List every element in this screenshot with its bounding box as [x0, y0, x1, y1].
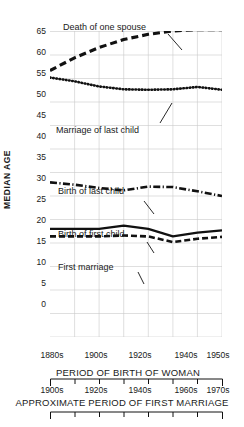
x-tick-secondary-1900s: 1900s [40, 385, 63, 395]
y-tick-25: 25 [22, 194, 46, 204]
series-line [50, 78, 222, 90]
x-axis-secondary-caption: APPROXIMATE PERIOD OF FIRST MARRIAGE [0, 397, 244, 408]
x-tick-primary-1900s: 1900s [84, 350, 107, 360]
y-tick-50: 50 [22, 89, 46, 99]
y-tick-40: 40 [22, 131, 46, 141]
series-line [50, 31, 222, 71]
y-tick-15: 15 [22, 236, 46, 246]
annotation-birth-of-last-child: Birth of last child [58, 186, 124, 196]
y-tick-35: 35 [22, 152, 46, 162]
annotation-birth-of-first-child: Birth of first child [58, 229, 125, 239]
gridlines [50, 31, 222, 337]
data-lines [50, 31, 222, 242]
x-tick-secondary-1940s: 1940s [128, 385, 151, 395]
x-tick-primary-1880s: 1880s [40, 350, 63, 360]
x-axis-primary-caption: PERIOD OF BIRTH OF WOMAN [6, 367, 244, 378]
x-axis-secondary-ruler [50, 411, 224, 420]
x-tick-secondary-1920s: 1920s [84, 385, 107, 395]
annotation-death-of-one-spouse: Death of one spouse [63, 22, 146, 32]
x-tick-secondary-1960s: 1960s [174, 385, 197, 395]
y-tick-55: 55 [22, 68, 46, 78]
x-tick-primary-1940s: 1940s [174, 350, 197, 360]
annotation-first-marriage: First marriage [58, 262, 114, 272]
y-tick-30: 30 [22, 173, 46, 183]
y-tick-10: 10 [22, 257, 46, 267]
x-tick-primary-1950s: 1950s [206, 350, 229, 360]
chart-canvas [50, 31, 222, 337]
leader-line [138, 272, 144, 284]
y-axis-title: MEDIAN AGE [2, 150, 12, 209]
x-tick-primary-1920s: 1920s [128, 350, 151, 360]
median-age-life-course-chart: MEDIAN AGE 65 60 55 50 45 40 35 30 25 20… [0, 0, 244, 427]
leader-line [168, 34, 182, 50]
leader-line [144, 201, 154, 214]
annotation-leader-lines [138, 34, 182, 284]
y-tick-65: 65 [22, 26, 46, 36]
y-tick-60: 60 [22, 47, 46, 57]
y-tick-5: 5 [22, 278, 46, 288]
x-tick-secondary-1970s: 1970s [206, 385, 229, 395]
y-tick-0: 0 [22, 299, 46, 309]
annotation-marriage-of-last-child: Marriage of last child [56, 125, 139, 135]
plot-area [50, 31, 222, 337]
y-tick-45: 45 [22, 110, 46, 120]
y-tick-20: 20 [22, 215, 46, 225]
leader-line [160, 103, 172, 123]
y-axis-tick-labels: 65 60 55 50 45 40 35 30 25 20 15 10 5 0 [22, 0, 46, 427]
